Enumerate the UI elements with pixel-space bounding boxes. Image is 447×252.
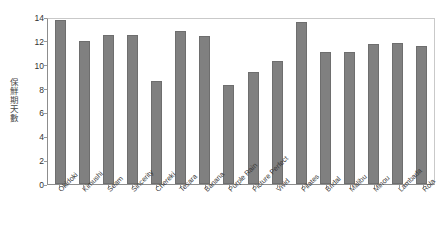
bar [151,81,162,184]
bar [320,52,331,184]
bar-cell [169,19,193,184]
y-tick-label: 0 [22,181,44,190]
bar-cell [217,19,241,184]
bar [392,43,403,184]
bar-cell [289,19,313,184]
bar-cell [145,19,169,184]
bar-chart: 保鮮期天數 02468101214 OkidokiKimushiSeamSinc… [0,0,447,252]
bar-cell [362,19,386,184]
y-tick-label: 8 [22,85,44,94]
bar [296,22,307,184]
bar-cell [410,19,434,184]
y-tick-label: 2 [22,157,44,166]
bar-cell [120,19,144,184]
bar [55,20,66,184]
plot-area [47,18,435,185]
bar-cell [96,19,120,184]
bar [103,35,114,184]
bar-cell [72,19,96,184]
y-tick-label: 10 [22,61,44,70]
bar [199,36,210,184]
bar-cell [338,19,362,184]
bar [127,35,138,184]
bar [368,44,379,184]
y-tick-label: 14 [22,14,44,23]
bar-cell [48,19,72,184]
y-tick-label: 4 [22,133,44,142]
bar [344,52,355,184]
y-tick-label: 6 [22,109,44,118]
bar-series [48,19,434,184]
bar [175,31,186,184]
bar [416,46,427,184]
y-tick-label: 12 [22,38,44,47]
bar-cell [386,19,410,184]
bar-cell [313,19,337,184]
y-axis-title: 保鮮期天數 [4,60,22,140]
bar-cell [193,19,217,184]
x-axis-tick-labels: OkidokiKimushiSeamSincerityCherekiTesara… [47,188,435,248]
bar-cell [241,19,265,184]
y-axis-tick-labels: 02468101214 [22,18,44,185]
bar [223,85,234,184]
bar [79,41,90,184]
